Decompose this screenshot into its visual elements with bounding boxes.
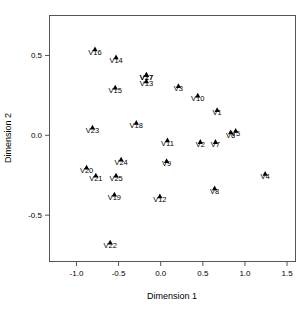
x-tick-label: 1.5	[282, 269, 294, 278]
x-tick-label: -0.5	[112, 269, 126, 278]
point-label: V16	[88, 48, 101, 57]
y-tick-label: -0.5	[28, 211, 42, 220]
scatter-plot-figure: -1.0-0.50.00.51.01.5 0.50.0-0.5 V1V2V3V4…	[0, 0, 308, 315]
point-label: V12	[153, 195, 166, 204]
data-point: V23	[86, 125, 99, 135]
point-label: V11	[161, 139, 174, 148]
point-label: V21	[89, 174, 102, 183]
point-label: V14	[109, 56, 122, 65]
point-label: V3	[174, 84, 183, 93]
data-point: V25	[109, 173, 122, 183]
data-point: V8	[210, 185, 219, 195]
point-label: V23	[86, 126, 99, 135]
data-point: V24	[114, 157, 127, 167]
plot-svg: -1.0-0.50.00.51.01.5 0.50.0-0.5 V1V2V3V4…	[0, 0, 308, 315]
x-tick-label: 1.0	[239, 269, 251, 278]
data-point: V9	[162, 158, 171, 168]
data-point: V1	[213, 107, 222, 117]
point-label: V15	[109, 86, 122, 95]
data-point: V18	[130, 120, 143, 130]
y-tick-label: 0.5	[31, 51, 43, 60]
point-label: V24	[114, 158, 127, 167]
data-point: V2	[196, 139, 205, 149]
point-label: V22	[103, 241, 116, 250]
point-label: V10	[191, 94, 204, 103]
data-point: V4	[261, 171, 270, 181]
data-point: V12	[153, 193, 166, 203]
point-label: V9	[162, 159, 171, 168]
data-point: V16	[88, 46, 101, 56]
point-label: V8	[210, 187, 219, 196]
data-point: V15	[109, 85, 122, 95]
point-label: V1	[213, 108, 222, 117]
x-tick-label: 0.5	[197, 269, 209, 278]
data-point: V14	[109, 54, 122, 64]
y-axis-title: Dimension 2	[3, 113, 13, 163]
x-tick-label: 0.0	[155, 269, 167, 278]
x-tick-label: -1.0	[70, 269, 84, 278]
point-label: V4	[261, 172, 270, 181]
point-label: V27	[140, 73, 153, 82]
data-point: V27	[140, 72, 153, 82]
data-point: V21	[89, 173, 102, 183]
data-point: V3	[174, 83, 183, 93]
y-tick-label: 0.0	[31, 131, 43, 140]
data-point: V19	[108, 192, 121, 202]
data-point: V10	[191, 93, 204, 103]
point-label: V18	[130, 121, 143, 130]
plot-background	[0, 0, 308, 315]
data-point: V7	[211, 139, 220, 149]
point-label: V6	[226, 131, 235, 140]
data-point: V22	[103, 240, 116, 250]
data-point: V11	[161, 137, 174, 147]
point-label: V19	[108, 193, 121, 202]
point-label: V7	[211, 140, 220, 149]
x-axis-title: Dimension 1	[147, 291, 197, 301]
point-label: V2	[196, 140, 205, 149]
point-label: V25	[109, 174, 122, 183]
data-point: V6	[226, 130, 235, 140]
